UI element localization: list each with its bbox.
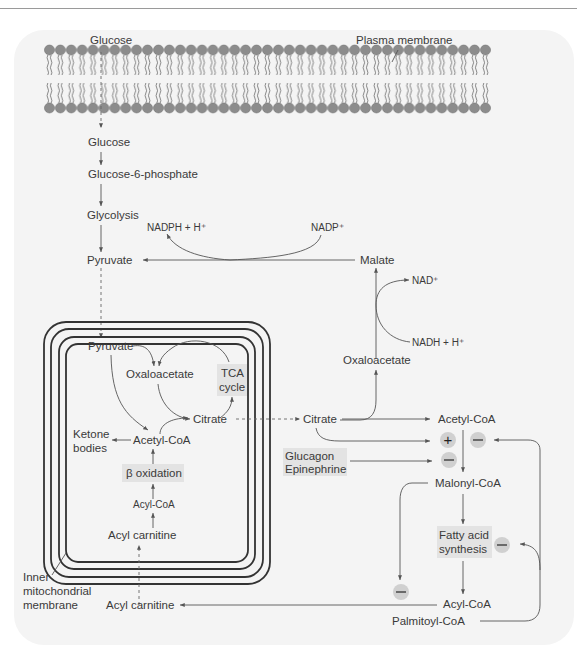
label-inner-line2: mitochondrial: [23, 585, 91, 597]
label-malonylcoa: Malonyl-CoA: [435, 477, 501, 489]
label-palmitoylcoa: Palmitoyl-CoA: [392, 615, 465, 627]
label-fas-line2: synthesis: [439, 543, 487, 555]
arrow-nadp-nadph: [167, 234, 321, 260]
plasma-membrane-bilayer: [44, 44, 491, 114]
label-glycolysis: Glycolysis: [87, 209, 139, 221]
label-pyruvate-mito: Pyruvate: [88, 340, 133, 352]
arrow-oxaloacetate-citrate: [158, 384, 190, 419]
arrow-citrate-oxaloacetate: [340, 370, 376, 420]
label-acylcarnitine-mito: Acyl carnitine: [108, 529, 176, 541]
label-fas-line1: Fatty acid: [439, 529, 489, 541]
pathway-diagram: Glucose Plasma membrane Glucose Glucose-…: [0, 0, 577, 659]
label-nad: NAD⁺: [412, 275, 438, 286]
label-nadh: NADH + H⁺: [412, 337, 464, 348]
label-epinephrine: Epinephrine: [285, 463, 346, 475]
label-malate: Malate: [360, 254, 395, 266]
arrow-nadh-nad: [376, 280, 410, 342]
label-glucose-6-phosphate: Glucose-6-phosphate: [88, 168, 198, 180]
label-plasma-membrane: Plasma membrane: [356, 34, 453, 46]
label-glucose-outside: Glucose: [90, 34, 132, 46]
arrow-palmitoyl-inhibit-fas: [520, 544, 540, 570]
label-beta-oxidation: β oxidation: [126, 467, 182, 479]
label-oxaloacetate-cytosol: Oxaloacetate: [343, 354, 411, 366]
arrow-citrate-activation: [316, 428, 430, 441]
label-nadph: NADPH + H⁺: [147, 222, 206, 233]
label-tca-line2: cycle: [219, 381, 245, 393]
label-glucagon: Glucagon: [285, 450, 334, 462]
label-acylcoa-mito: Acyl-CoA: [133, 499, 175, 510]
label-acylcarnitine-cytosol: Acyl carnitine: [106, 599, 174, 611]
arrow-malonylcoa-inhibit-cpt: [400, 483, 428, 580]
label-ketone-line2: bodies: [73, 442, 107, 454]
label-citrate-mito: Citrate: [193, 413, 227, 425]
label-acetylcoa-cytosol: Acetyl-CoA: [438, 413, 496, 425]
label-nadp: NADP⁺: [311, 222, 344, 233]
label-tca-line1: TCA: [221, 367, 244, 379]
label-inner-line3: membrane: [23, 599, 78, 611]
label-acylcoa-cytosol: Acyl-CoA: [443, 598, 491, 610]
label-inner-line1: Inner: [23, 571, 49, 583]
plus-icon: +: [444, 431, 453, 448]
label-pyruvate-cytosol: Pyruvate: [87, 254, 132, 266]
arrow-acetylcoa-citrate: [160, 418, 188, 434]
arrow-pyruvate-acetylcoa: [111, 355, 148, 430]
arrow-pyruvate-oxaloacetate: [133, 346, 154, 366]
label-citrate-cytosol: Citrate: [303, 413, 337, 425]
label-ketone-line1: Ketone: [73, 428, 109, 440]
label-acetylcoa-mito: Acetyl-CoA: [133, 434, 191, 446]
label-oxaloacetate-mito: Oxaloacetate: [126, 368, 194, 380]
label-glucose: Glucose: [88, 136, 130, 148]
